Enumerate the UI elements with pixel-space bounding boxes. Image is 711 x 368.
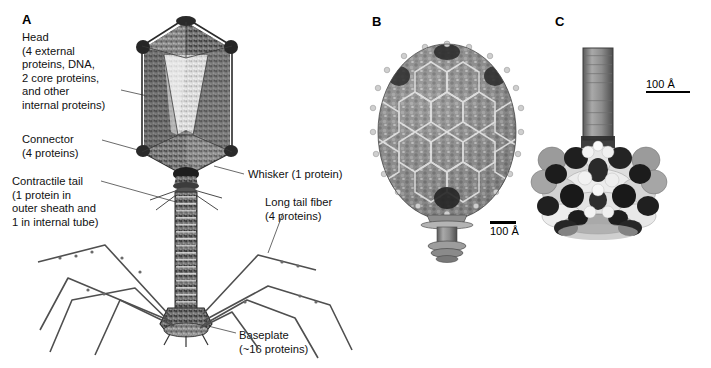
callout-baseplate: Baseplate (~16 proteins) (239, 329, 308, 356)
phage-head (136, 16, 238, 181)
label-gp11: 11 (604, 211, 614, 221)
callout-connector: Connector (4 proteins) (22, 133, 79, 160)
callout-head: Head (4 external proteins, DNA, 2 core p… (22, 31, 105, 113)
leader-whisker (214, 166, 244, 174)
figure-root: A Head (4 external proteins, DNA, 2 core… (0, 0, 711, 368)
callout-whisker: Whisker (1 protein) (248, 168, 343, 182)
scalebar-label-b: 100 Å (490, 225, 519, 237)
capsid-neck-collar (421, 215, 473, 263)
leader-lines-panel-a (101, 90, 283, 333)
capsid-surface-knobs (370, 41, 524, 217)
phage-whiskers (150, 190, 222, 210)
callout-long-tail-fiber: Long tail fiber (4 proteins) (265, 196, 332, 223)
phage-baseplate (160, 308, 212, 347)
panel-letter-c: C (555, 14, 565, 29)
leader-baseplate (196, 323, 236, 333)
tail-sheath-rings (176, 196, 196, 303)
tube-striations (584, 55, 612, 125)
capsid-vertices (373, 44, 521, 209)
scalebar-panel-b: 100 Å (490, 221, 519, 237)
callout-contractile-tail: Contractile tail (1 protein in outer she… (12, 175, 98, 229)
label-gp6: 6 (598, 155, 603, 165)
label-gp19: 19 (592, 94, 602, 104)
scalebar-label-c: 100 Å (646, 78, 690, 90)
panel-letter-a: A (22, 12, 32, 27)
label-gp10: 10 (603, 182, 613, 192)
phage-connector (150, 176, 222, 210)
capsomere-lattice (367, 62, 527, 202)
leader-connector (102, 140, 192, 165)
scalebar-panel-c: 100 Å (646, 78, 690, 93)
panel-letter-b: B (372, 14, 382, 29)
scalebar-line-b (490, 221, 516, 224)
leader-contractile-tail (101, 181, 194, 207)
leader-head (121, 90, 196, 107)
fiber-beads (58, 250, 317, 303)
scalebar-line-c (646, 91, 690, 93)
phage-contractile-tail (175, 192, 197, 310)
baseplate-reconstruction (531, 48, 667, 240)
